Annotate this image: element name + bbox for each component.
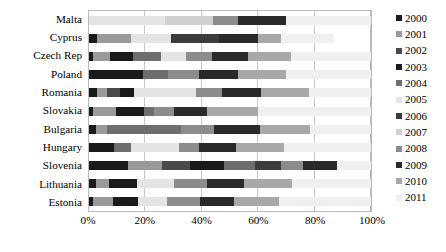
bar-segment[interactable] — [89, 70, 123, 79]
bar-segment[interactable] — [213, 16, 238, 25]
bar-segment[interactable] — [199, 70, 238, 79]
bar-segment[interactable] — [97, 34, 131, 43]
bar-segment[interactable] — [162, 161, 190, 170]
legend-item[interactable]: 2001 — [396, 26, 446, 42]
bar-segment[interactable] — [131, 143, 179, 152]
bar-segment[interactable] — [96, 125, 107, 134]
bar-segment[interactable] — [96, 179, 109, 188]
bar-segment[interactable] — [214, 125, 259, 134]
bar-segment[interactable] — [109, 179, 137, 188]
bar-segment[interactable] — [291, 52, 371, 61]
bar-segment[interactable] — [89, 34, 97, 43]
legend-item[interactable]: 2000 — [396, 10, 446, 26]
bar-segment[interactable] — [207, 107, 258, 116]
bar-segment[interactable] — [107, 88, 120, 97]
bar-segment[interactable] — [89, 179, 96, 188]
bar-segment[interactable] — [258, 107, 371, 116]
stacked-bar[interactable] — [89, 197, 371, 206]
bar-segment[interactable] — [138, 197, 166, 206]
bar-segment[interactable] — [212, 52, 249, 61]
bar-segment[interactable] — [179, 143, 199, 152]
bar-segment[interactable] — [234, 197, 279, 206]
bar-segment[interactable] — [174, 179, 208, 188]
bar-segment[interactable] — [207, 179, 244, 188]
legend-item[interactable]: 2003 — [396, 59, 446, 75]
bar-segment[interactable] — [238, 70, 286, 79]
bar-segment[interactable] — [261, 88, 309, 97]
bar-segment[interactable] — [131, 34, 170, 43]
legend-item[interactable]: 2011 — [396, 190, 446, 206]
bar-segment[interactable] — [165, 16, 213, 25]
bar-segment[interactable] — [337, 161, 371, 170]
bar-segment[interactable] — [200, 197, 234, 206]
bar-segment[interactable] — [97, 88, 107, 97]
bar-segment[interactable] — [89, 143, 114, 152]
stacked-bar[interactable] — [89, 161, 371, 170]
bar-segment[interactable] — [236, 143, 284, 152]
bar-segment[interactable] — [310, 125, 371, 134]
stacked-bar[interactable] — [89, 107, 371, 116]
bar-segment[interactable] — [89, 16, 165, 25]
bar-segment[interactable] — [279, 197, 371, 206]
legend-item[interactable]: 2008 — [396, 141, 446, 157]
stacked-bar[interactable] — [89, 70, 371, 79]
bar-segment[interactable] — [93, 107, 116, 116]
bar-segment[interactable] — [110, 52, 133, 61]
bar-segment[interactable] — [181, 125, 215, 134]
bar-segment[interactable] — [281, 161, 304, 170]
bar-segment[interactable] — [258, 34, 281, 43]
bar-segment[interactable] — [255, 161, 280, 170]
bar-segment[interactable] — [123, 70, 143, 79]
bar-segment[interactable] — [309, 88, 371, 97]
stacked-bar[interactable] — [89, 52, 371, 61]
bar-segment[interactable] — [168, 70, 199, 79]
legend-item[interactable]: 2006 — [396, 108, 446, 124]
stacked-bar[interactable] — [89, 125, 371, 134]
bar-segment[interactable] — [161, 52, 186, 61]
bar-segment[interactable] — [222, 88, 261, 97]
legend-item[interactable]: 2010 — [396, 173, 446, 189]
bar-segment[interactable] — [260, 125, 311, 134]
bar-segment[interactable] — [190, 161, 224, 170]
bar-segment[interactable] — [286, 70, 371, 79]
bar-segment[interactable] — [238, 16, 286, 25]
bar-segment[interactable] — [219, 34, 258, 43]
legend-item[interactable]: 2009 — [396, 157, 446, 173]
bar-segment[interactable] — [144, 107, 154, 116]
stacked-bar[interactable] — [89, 143, 371, 152]
legend-item[interactable]: 2004 — [396, 75, 446, 91]
bar-segment[interactable] — [133, 52, 161, 61]
bar-segment[interactable] — [89, 88, 97, 97]
bar-segment[interactable] — [128, 161, 162, 170]
legend-item[interactable]: 2002 — [396, 43, 446, 59]
bar-segment[interactable] — [284, 143, 371, 152]
bar-segment[interactable] — [171, 34, 219, 43]
bar-segment[interactable] — [167, 197, 201, 206]
bar-segment[interactable] — [186, 52, 211, 61]
bar-segment[interactable] — [93, 52, 110, 61]
bar-segment[interactable] — [114, 143, 131, 152]
bar-segment[interactable] — [244, 179, 292, 188]
bar-segment[interactable] — [89, 125, 96, 134]
stacked-bar[interactable] — [89, 179, 371, 188]
bar-segment[interactable] — [93, 197, 113, 206]
bar-segment[interactable] — [120, 88, 134, 97]
legend-item[interactable]: 2007 — [396, 124, 446, 140]
bar-segment[interactable] — [89, 161, 128, 170]
bar-segment[interactable] — [137, 179, 174, 188]
legend-item[interactable]: 2005 — [396, 92, 446, 108]
bar-segment[interactable] — [196, 88, 221, 97]
bar-segment[interactable] — [143, 70, 168, 79]
bar-segment[interactable] — [107, 125, 180, 134]
bar-segment[interactable] — [281, 34, 335, 43]
bar-segment[interactable] — [134, 88, 196, 97]
bar-segment[interactable] — [248, 52, 290, 61]
stacked-bar[interactable] — [89, 16, 371, 25]
bar-segment[interactable] — [113, 197, 138, 206]
bar-segment[interactable] — [303, 161, 337, 170]
bar-segment[interactable] — [174, 107, 208, 116]
bar-segment[interactable] — [116, 107, 144, 116]
stacked-bar[interactable] — [89, 88, 371, 97]
bar-segment[interactable] — [199, 143, 236, 152]
bar-segment[interactable] — [292, 179, 371, 188]
